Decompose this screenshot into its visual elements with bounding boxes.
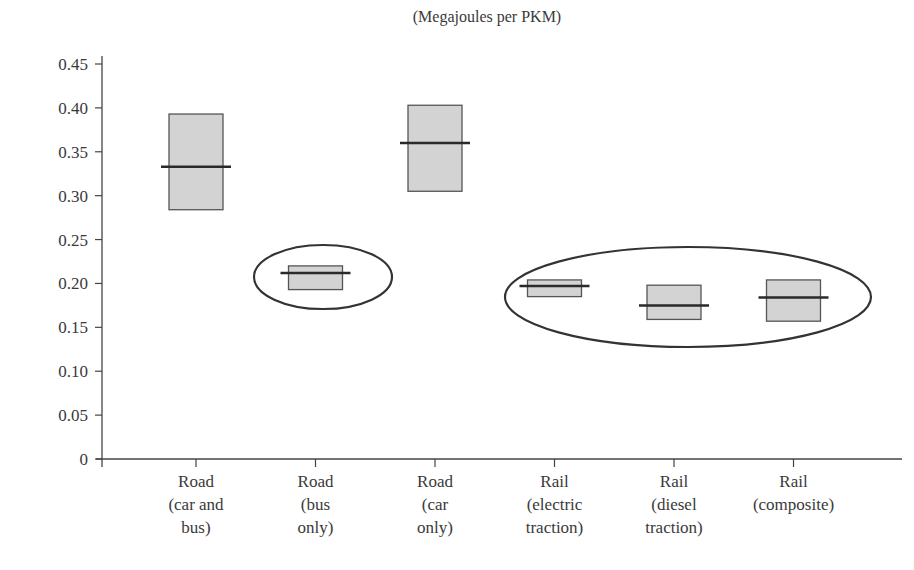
box-plot-series [161,105,829,321]
x-category-label: Road(car andbus) [168,472,224,537]
y-tick-label: 0.10 [58,362,88,381]
y-tick-label: 0.40 [58,99,88,118]
x-axis: Road(car andbus)Road(busonly)Road(caronl… [96,459,902,537]
x-category-label: Road(busonly) [298,472,334,537]
x-category-label: Road(caronly) [417,472,453,537]
range-box [289,266,343,290]
y-tick-label: 0.05 [58,406,88,425]
range-box [528,280,582,297]
x-category-label: Rail(electrictraction) [526,472,584,537]
y-tick-label: 0.30 [58,187,88,206]
y-tick-label: 0.20 [58,274,88,293]
y-tick-label: 0.25 [58,231,88,250]
y-tick-label: 0.45 [58,55,88,74]
y-axis: 00.050.100.150.200.250.300.350.400.45 [58,55,102,469]
chart: (Megajoules per PKM) 00.050.100.150.200.… [0,0,914,570]
range-box [408,105,462,191]
range-box [647,285,701,319]
range-box [169,114,223,210]
y-tick-label: 0.35 [58,143,88,162]
range-box [767,280,821,321]
y-tick-label: 0.15 [58,318,88,337]
x-category-label: Rail(dieseltraction) [645,472,703,537]
x-category-label: Rail(composite) [753,472,834,514]
chart-title: (Megajoules per PKM) [413,8,561,26]
y-tick-label: 0 [80,450,89,469]
